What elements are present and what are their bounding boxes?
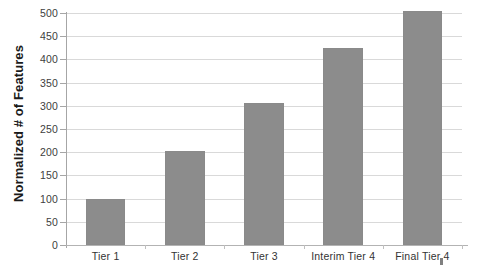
y-axis-tick-label: 350: [6, 77, 58, 89]
y-axis-tick-label: 0: [6, 239, 58, 251]
bar-chart: Normalized # of Features 050100150200250…: [0, 0, 478, 280]
y-axis-tick: [60, 129, 66, 130]
x-axis-line: [60, 245, 468, 246]
y-axis-tick: [60, 222, 66, 223]
y-axis-tick-labels: 050100150200250300350400450500: [0, 0, 58, 280]
x-axis-tick: [145, 245, 146, 249]
x-axis-tick-label: Tier 3: [250, 250, 278, 262]
x-axis-tick-label: Tier 1: [92, 250, 120, 262]
x-axis-tick-labels: Tier 1Tier 2Tier 3Interim Tier 4Final Ti…: [66, 250, 462, 270]
scan-artifact: [440, 258, 443, 265]
y-axis-tick-label: 200: [6, 146, 58, 158]
y-axis-tick: [60, 106, 66, 107]
x-axis-tick: [383, 245, 384, 249]
y-axis-tick: [60, 245, 66, 246]
y-axis-tick-label: 100: [6, 193, 58, 205]
y-axis-tick-label: 500: [6, 7, 58, 19]
bar: [323, 48, 363, 245]
bar: [86, 199, 126, 245]
bar: [165, 151, 205, 245]
y-axis-tick: [60, 59, 66, 60]
y-axis-tick: [60, 152, 66, 153]
x-axis-tick: [224, 245, 225, 249]
y-axis-tick: [60, 13, 66, 14]
y-axis-tick: [60, 175, 66, 176]
bar: [244, 103, 284, 245]
x-axis-tick: [462, 245, 463, 249]
y-axis-tick: [60, 83, 66, 84]
y-axis-tick: [60, 199, 66, 200]
y-axis-tick-label: 250: [6, 123, 58, 135]
y-axis-tick-label: 450: [6, 30, 58, 42]
y-axis-tick: [60, 36, 66, 37]
y-axis-tick-label: 150: [6, 169, 58, 181]
x-axis-tick-label: Interim Tier 4: [311, 250, 375, 262]
y-axis-tick-label: 400: [6, 53, 58, 65]
y-axis-tick-label: 50: [6, 216, 58, 228]
y-axis-tick-label: 300: [6, 100, 58, 112]
x-axis-tick-label: Tier 2: [171, 250, 199, 262]
bar: [403, 11, 443, 245]
bars-layer: [66, 13, 462, 245]
x-axis-tick: [304, 245, 305, 249]
